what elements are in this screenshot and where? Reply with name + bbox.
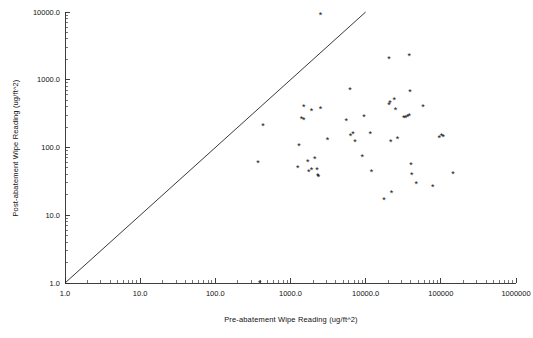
- data-point-marker: *: [409, 160, 413, 170]
- x-axis-title: Pre-abatement Wipe Reading (ug/ft^2): [224, 315, 358, 324]
- data-point-marker: *: [362, 112, 366, 122]
- x-tick-label: 10.0: [133, 289, 148, 298]
- data-point-marker: *: [326, 135, 330, 145]
- data-point-marker: *: [396, 134, 400, 144]
- chart-canvas: 1.010.0100.01000.010000.0 1.010.0100.010…: [0, 0, 533, 338]
- data-point-marker: *: [410, 170, 414, 180]
- data-point-marker: *: [382, 195, 386, 205]
- data-point-marker: *: [394, 105, 398, 115]
- data-point-marker: *: [390, 188, 394, 198]
- data-point-marker: *: [353, 137, 357, 147]
- data-point-marker: *: [387, 54, 391, 64]
- data-point-marker: *: [392, 95, 396, 105]
- data-point-marker: *: [414, 179, 418, 189]
- data-point-marker: *: [348, 85, 352, 95]
- data-point-marker: *: [408, 87, 412, 97]
- data-point-marker: *: [451, 169, 455, 179]
- data-point-marker: *: [421, 102, 425, 112]
- data-point-marker: *: [307, 167, 311, 177]
- data-point-marker: *: [431, 182, 435, 192]
- scatter-plot-figure: 1.010.0100.01000.010000.0 1.010.0100.010…: [0, 0, 533, 338]
- data-point-marker: *: [387, 100, 391, 110]
- data-point-marker: *: [302, 102, 306, 112]
- data-point-marker: *: [407, 51, 411, 61]
- x-tick-label: 100000: [428, 289, 453, 298]
- data-point-marker: *: [344, 116, 348, 126]
- data-point-marker: *: [261, 121, 265, 131]
- x-tick-label: 10000.0: [352, 289, 379, 298]
- y-tick-label: 1.0: [50, 279, 60, 288]
- y-axis-title: Post-abatement Wipe Reading (ug/ft^2): [11, 79, 20, 216]
- data-point-marker: *: [319, 10, 323, 20]
- x-tick-label: 1000000: [501, 289, 530, 298]
- data-point-marker: *: [256, 158, 260, 168]
- y-tick-label: 10.0: [45, 211, 60, 220]
- y-tick-label: 100.0: [41, 143, 60, 152]
- data-point-marker: *: [302, 115, 306, 125]
- data-point-marker: *: [258, 278, 262, 288]
- data-point-marker: *: [407, 111, 411, 121]
- data-point-marker: *: [368, 129, 372, 139]
- data-point-marker: *: [389, 137, 393, 147]
- x-tick-label: 1.0: [60, 289, 70, 298]
- data-point-marker: *: [317, 172, 321, 182]
- x-tick-label: 100.0: [206, 289, 225, 298]
- data-point-marker: *: [442, 132, 446, 142]
- y-tick-label: 10000.0: [33, 8, 60, 17]
- data-point-marker: *: [360, 152, 364, 162]
- data-point-marker: *: [297, 141, 301, 151]
- y-tick-label: 1000.0: [37, 75, 60, 84]
- data-point-marker: *: [370, 167, 374, 177]
- x-tick-label: 1000.0: [279, 289, 302, 298]
- data-point-marker: *: [319, 104, 323, 114]
- data-point-marker: *: [310, 106, 314, 116]
- data-point-marker: *: [296, 163, 300, 173]
- data-point-marker: *: [313, 154, 317, 164]
